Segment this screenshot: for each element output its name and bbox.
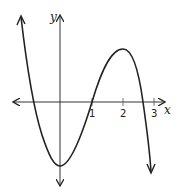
cubic-graph: 1 2 3 x y xyxy=(0,0,178,196)
tick-label-3: 3 xyxy=(151,108,157,119)
x-axis-label: x xyxy=(164,103,171,117)
tick-label-2: 2 xyxy=(120,108,126,119)
graph-canvas: 1 2 3 x y xyxy=(0,0,178,196)
curve xyxy=(21,17,151,172)
y-axis-label: y xyxy=(49,10,57,24)
